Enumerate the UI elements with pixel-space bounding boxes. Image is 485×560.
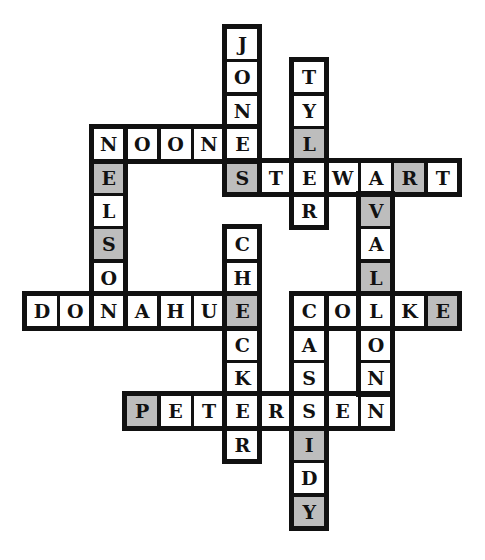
grid-cell[interactable]: E: [225, 294, 259, 328]
grid-cell[interactable]: A: [125, 294, 159, 328]
cell-letter: L: [303, 133, 316, 155]
grid-cell[interactable]: L: [92, 194, 126, 228]
grid-cell[interactable]: S: [92, 227, 126, 261]
grid-cell[interactable]: T: [192, 394, 226, 428]
cell-letter: E: [235, 300, 249, 322]
grid-cell[interactable]: E: [159, 394, 193, 428]
cell-letter: L: [369, 300, 382, 322]
cell-letter: K: [234, 367, 251, 389]
grid-cell[interactable]: N: [92, 127, 126, 161]
cell-letter: R: [401, 167, 417, 189]
cell-letter: O: [334, 300, 351, 322]
grid-cell[interactable]: P: [125, 394, 159, 428]
grid-cell[interactable]: O: [159, 127, 193, 161]
cell-letter: U: [201, 300, 218, 322]
grid-cell[interactable]: L: [359, 294, 393, 328]
cell-letter: S: [102, 233, 116, 255]
grid-cell[interactable]: S: [292, 361, 326, 395]
cell-letter: Y: [302, 100, 316, 122]
cell-letter: H: [233, 267, 251, 289]
cell-letter: N: [200, 133, 217, 155]
grid-cell[interactable]: S: [225, 161, 259, 195]
grid-cell[interactable]: O: [359, 328, 393, 362]
grid-cell[interactable]: L: [292, 127, 326, 161]
grid-cell[interactable]: L: [359, 261, 393, 295]
grid-cell[interactable]: V: [359, 194, 393, 228]
cell-letter: O: [67, 300, 84, 322]
grid-cell[interactable]: W: [326, 161, 360, 195]
grid-cell[interactable]: O: [125, 127, 159, 161]
grid-cell[interactable]: C: [225, 227, 259, 261]
cell-letter: T: [302, 66, 316, 88]
cell-letter: C: [235, 233, 250, 255]
grid-cell[interactable]: O: [326, 294, 360, 328]
grid-cell[interactable]: T: [259, 161, 293, 195]
grid-cell[interactable]: E: [326, 394, 360, 428]
grid-cell[interactable]: H: [159, 294, 193, 328]
grid-cell[interactable]: T: [292, 60, 326, 94]
cell-letter: S: [302, 367, 316, 389]
grid-cell[interactable]: J: [225, 27, 259, 61]
grid-cell[interactable]: N: [225, 94, 259, 128]
cell-letter: T: [436, 167, 450, 189]
grid-cell[interactable]: N: [92, 294, 126, 328]
cell-letter: Y: [302, 501, 316, 523]
grid-cell[interactable]: H: [225, 261, 259, 295]
cell-letter: N: [100, 133, 117, 155]
grid-cell[interactable]: S: [292, 394, 326, 428]
grid-cell[interactable]: N: [359, 361, 393, 395]
grid-cell[interactable]: N: [192, 127, 226, 161]
cell-letter: K: [401, 300, 418, 322]
cell-letter: P: [135, 400, 149, 422]
grid-cell[interactable]: E: [426, 294, 460, 328]
cell-letter: H: [167, 300, 185, 322]
grid-cell[interactable]: R: [259, 394, 293, 428]
cell-letter: W: [332, 167, 353, 189]
grid-cell[interactable]: E: [92, 161, 126, 195]
grid-cell[interactable]: A: [359, 227, 393, 261]
cell-letter: D: [34, 300, 50, 322]
grid-cell[interactable]: A: [359, 161, 393, 195]
grid-cell[interactable]: N: [359, 394, 393, 428]
grid-cell[interactable]: O: [225, 60, 259, 94]
cell-letter: E: [335, 400, 349, 422]
cell-letter: O: [368, 334, 385, 356]
grid-cell[interactable]: U: [192, 294, 226, 328]
grid-cell[interactable]: O: [92, 261, 126, 295]
cell-letter: O: [167, 133, 184, 155]
grid-cell[interactable]: K: [225, 361, 259, 395]
cell-letter: N: [234, 100, 251, 122]
cell-letter: R: [268, 400, 284, 422]
grid-cell[interactable]: E: [292, 161, 326, 195]
cell-letter: S: [302, 400, 316, 422]
grid-cell[interactable]: C: [225, 328, 259, 362]
cell-letter: O: [234, 66, 251, 88]
cell-letter: I: [305, 434, 314, 456]
grid-cell[interactable]: O: [58, 294, 92, 328]
grid-cell[interactable]: D: [25, 294, 59, 328]
grid-cell[interactable]: R: [225, 428, 259, 462]
grid-cell[interactable]: Y: [292, 495, 326, 529]
cell-letter: C: [302, 300, 317, 322]
cell-letter: O: [101, 267, 118, 289]
grid-cell[interactable]: T: [426, 161, 460, 195]
cell-letter: D: [301, 467, 317, 489]
grid-cell[interactable]: E: [225, 127, 259, 161]
cell-letter: A: [369, 167, 384, 189]
cell-letter: R: [234, 434, 250, 456]
grid-cell[interactable]: D: [292, 461, 326, 495]
cell-letter: S: [236, 167, 250, 189]
grid-cell[interactable]: Y: [292, 94, 326, 128]
grid-cell[interactable]: R: [392, 161, 426, 195]
grid-cell[interactable]: I: [292, 428, 326, 462]
cell-letter: L: [369, 267, 382, 289]
grid-cell[interactable]: K: [392, 294, 426, 328]
crossword-grid: JONESTYLERNOONELSONTWARTVALLONCHECKERDOA…: [0, 0, 485, 560]
cell-letter: N: [367, 367, 384, 389]
grid-cell[interactable]: A: [292, 328, 326, 362]
cell-letter: A: [302, 334, 317, 356]
grid-cell[interactable]: E: [225, 394, 259, 428]
cell-letter: L: [102, 200, 115, 222]
grid-cell[interactable]: C: [292, 294, 326, 328]
grid-cell[interactable]: R: [292, 194, 326, 228]
